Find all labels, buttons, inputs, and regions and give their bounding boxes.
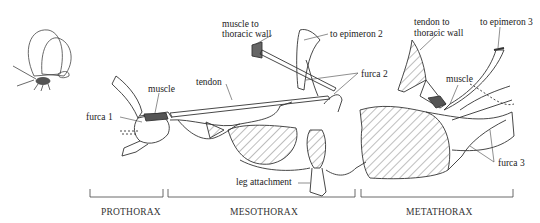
label-tendon-to-wall-2: thoracic wall [414,28,463,38]
caption-metathorax: METATHORAX [406,207,473,217]
mesothorax-bracket [168,189,355,197]
label-furca-3: furca 3 [498,158,525,168]
caption-mesothorax: MESOTHORAX [230,207,298,217]
label-tendon: tendon [196,77,222,87]
label-muscle-prothorax: muscle [148,84,175,94]
label-furca-1: furca 1 [86,112,113,122]
label-to-epimeron-2: to epimeron 2 [330,29,383,39]
label-furca-2: furca 2 [361,69,388,79]
caption-prothorax: PROTHORAX [101,207,161,217]
label-muscle-to-wall-1: muscle to [222,19,259,29]
metathorax-bracket [361,189,513,197]
butterfly-icon [13,30,71,91]
segment-brackets [90,189,513,197]
label-muscle-metathorax: muscle [446,74,473,84]
label-muscle-to-wall-2: thoracic wall [222,29,271,39]
metathorax-structure [360,40,514,179]
label-leg-attachment: leg attachment [236,177,292,187]
mesothorax-structure [170,29,366,196]
prothorax-bracket [90,189,163,197]
label-tendon-to-wall-1: tendon to [414,17,450,27]
label-to-epimeron-3: to epimeron 3 [480,17,533,27]
